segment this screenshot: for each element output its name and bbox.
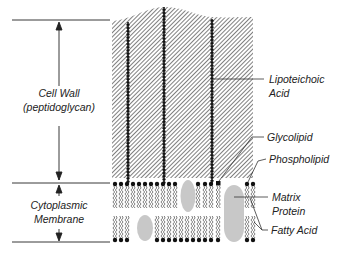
leader-fatty-acid-1 (250, 198, 268, 230)
label-lipoteichoic-acid: Lipoteichoic Acid (269, 73, 324, 99)
peptidoglycan-layer (112, 0, 253, 180)
label-cytoplasmic-membrane: Cytoplasmic Membrane (14, 199, 104, 225)
label-matrix-protein: Matrix Protein (272, 191, 305, 217)
label-glycolipid: Glycolipid (267, 131, 313, 143)
protein-transmembrane (224, 185, 244, 242)
label-cell-wall: Cell Wall (peptidoglycan) (14, 87, 104, 113)
protein-upper-leaflet (181, 180, 196, 212)
protein-lower-leaflet (137, 215, 153, 241)
label-phospholipid: Phospholipid (269, 153, 329, 165)
matrix-proteins (137, 180, 244, 242)
label-fatty-acid: Fatty Acid (271, 224, 317, 236)
